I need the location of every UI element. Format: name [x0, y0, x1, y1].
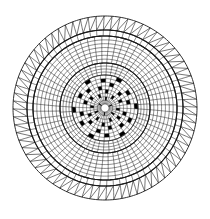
filled-cell [104, 133, 109, 137]
figure-root [0, 0, 210, 219]
filled-cell [101, 79, 106, 83]
radial-mesh-diagram [0, 0, 210, 219]
